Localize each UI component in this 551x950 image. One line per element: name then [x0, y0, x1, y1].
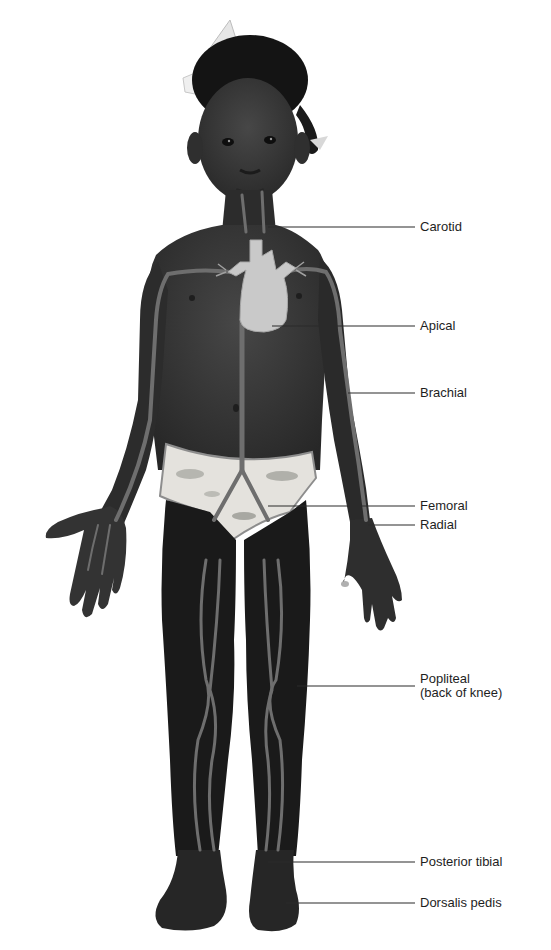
label-radial: Radial — [420, 518, 457, 532]
head — [187, 35, 328, 202]
label-brachial-text: Brachial — [420, 385, 467, 400]
label-posterior-tibial-text: Posterior tibial — [420, 854, 502, 869]
torso — [148, 225, 329, 470]
label-popliteal-text: Popliteal — [420, 672, 502, 686]
label-radial-text: Radial — [420, 517, 457, 532]
label-apical-text: Apical — [420, 318, 455, 333]
left-arm — [318, 258, 402, 631]
label-carotid: Carotid — [420, 220, 462, 234]
child-pulse-sites-illustration — [0, 0, 551, 950]
label-apical: Apical — [420, 319, 455, 333]
label-carotid-text: Carotid — [420, 219, 462, 234]
legs — [162, 500, 311, 856]
label-popliteal: Popliteal (back of knee) — [420, 672, 502, 700]
label-dorsalis-pedis: Dorsalis pedis — [420, 896, 502, 910]
label-popliteal-subtext: (back of knee) — [420, 686, 502, 700]
label-femoral-text: Femoral — [420, 498, 468, 513]
label-posterior-tibial: Posterior tibial — [420, 855, 502, 869]
label-brachial: Brachial — [420, 386, 467, 400]
label-femoral: Femoral — [420, 499, 468, 513]
label-dorsalis-pedis-text: Dorsalis pedis — [420, 895, 502, 910]
right-arm — [46, 262, 168, 617]
